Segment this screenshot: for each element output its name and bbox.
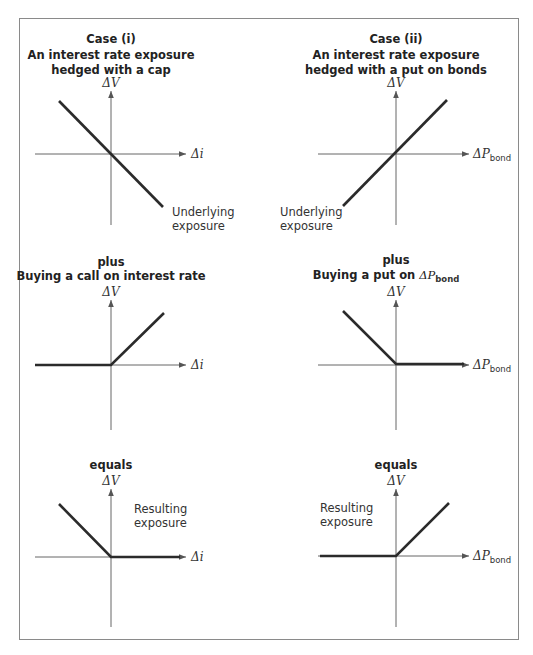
- case-i-subtitle-2: hedged with a cap: [51, 63, 170, 77]
- equals-heading: equals: [375, 458, 418, 472]
- case-ii-underlying-panel: ΔV ΔPbond Underlying exposure: [280, 76, 511, 233]
- case-ii-subtitle-2: hedged with a put on bonds: [305, 63, 487, 77]
- plus-heading: plus: [97, 255, 124, 269]
- y-axis-label: ΔV: [386, 474, 406, 488]
- annotation-2: exposure: [134, 516, 187, 530]
- case-ii-title: Case (ii): [369, 32, 422, 46]
- call-subheading: Buying a call on interest rate: [16, 269, 205, 283]
- annotation-2: exposure: [280, 219, 333, 233]
- y-axis-label: ΔV: [101, 285, 121, 299]
- annotation-1: Underlying: [280, 205, 343, 219]
- annotation-2: exposure: [172, 219, 225, 233]
- annotation-1: Underlying: [172, 205, 235, 219]
- case-ii-result-panel: equals ΔV ΔPbond Resulting exposure: [318, 458, 511, 627]
- put-subheading: Buying a put on ΔPbond: [313, 268, 460, 284]
- call-payoff-line: [35, 313, 164, 365]
- x-axis-label: ΔPbond: [472, 147, 511, 163]
- x-axis-label: Δi: [190, 550, 204, 564]
- put-payoff-line: [343, 311, 464, 364]
- equals-heading: equals: [90, 458, 133, 472]
- case-i-title: Case (i): [86, 32, 135, 46]
- case-ii-column: Case (ii) An interest rate exposure hedg…: [280, 32, 511, 627]
- case-i-underlying-panel: ΔV Δi Underlying exposure: [35, 76, 235, 233]
- x-axis-label: ΔPbond: [472, 358, 511, 374]
- y-axis-label: ΔV: [101, 76, 121, 90]
- y-axis-label: ΔV: [386, 76, 406, 90]
- annotation-2: exposure: [320, 515, 373, 529]
- x-axis-label: Δi: [190, 147, 204, 161]
- hedging-payoff-diagram: Case (i) An interest rate exposure hedge…: [0, 0, 533, 655]
- underlying-exposure-line: [343, 100, 447, 206]
- y-axis-label: ΔV: [386, 285, 406, 299]
- case-ii-put-panel: plus Buying a put on ΔPbond ΔV ΔPbond: [313, 253, 511, 430]
- case-i-column: Case (i) An interest rate exposure hedge…: [16, 32, 234, 627]
- annotation-1: Resulting: [320, 501, 373, 515]
- case-i-call-panel: plus Buying a call on interest rate ΔV Δ…: [16, 255, 205, 430]
- y-axis-label: ΔV: [101, 474, 121, 488]
- x-axis-label: Δi: [190, 358, 204, 372]
- case-ii-subtitle-1: An interest rate exposure: [313, 48, 480, 62]
- plus-heading: plus: [382, 253, 409, 267]
- case-i-result-panel: equals ΔV Δi Resulting exposure: [35, 458, 204, 627]
- annotation-1: Resulting: [134, 502, 187, 516]
- case-i-subtitle-1: An interest rate exposure: [28, 48, 195, 62]
- x-axis-label: ΔPbond: [472, 549, 511, 565]
